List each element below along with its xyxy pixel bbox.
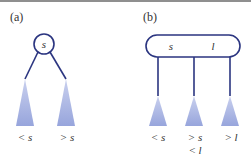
- node-key-l: l: [211, 40, 214, 52]
- panel-b-graphics: [146, 35, 240, 126]
- node-key-s: s: [169, 40, 173, 52]
- subtree-label-less-s: < s: [151, 131, 165, 143]
- subtree-right-triangle: [57, 79, 75, 126]
- subtree-label-greater-s: > s: [60, 131, 74, 143]
- edge-left: [25, 52, 38, 79]
- subtree-label-less-s: < s: [18, 131, 32, 143]
- subtree-label-greater-s: > s: [188, 131, 202, 143]
- panel-b-label: (b): [143, 10, 157, 24]
- three-node-pill: [146, 35, 240, 57]
- panel-a-label: (a): [10, 10, 23, 24]
- subtree-middle-triangle: [185, 96, 203, 126]
- tree-diagram-canvas: [0, 0, 251, 158]
- subtree-label-less-l: < l: [188, 144, 201, 156]
- subtree-left-triangle: [149, 96, 167, 126]
- node-key-s: s: [42, 38, 46, 50]
- subtree-left-triangle: [16, 79, 34, 126]
- subtree-right-triangle: [221, 96, 239, 126]
- subtree-label-greater-l: > l: [224, 131, 237, 143]
- edge-right: [50, 52, 66, 79]
